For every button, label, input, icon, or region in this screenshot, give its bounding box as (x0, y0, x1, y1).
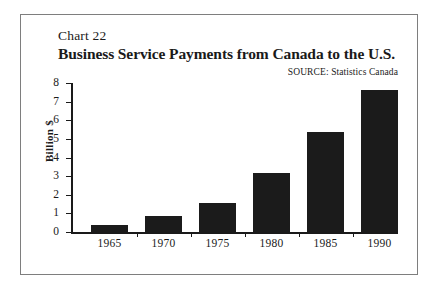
y-tick: 1 (66, 213, 71, 214)
bar (361, 90, 398, 232)
chart-figure: Chart 22 Business Service Payments from … (20, 14, 418, 275)
y-tick-label: 2 (53, 187, 59, 202)
x-tick (245, 233, 246, 237)
x-tick-label: 1980 (253, 237, 290, 249)
x-tick-label: 1965 (91, 237, 128, 249)
y-tick-label: 6 (53, 112, 59, 127)
bar (253, 173, 290, 232)
x-axis-line (71, 232, 398, 234)
chart-heading: Chart 22 Business Service Payments from … (58, 28, 398, 63)
y-tick: 0 (66, 232, 71, 233)
source-note: SOURCE: Statistics Canada (58, 67, 398, 77)
y-tick: 6 (66, 120, 71, 121)
y-tick: 2 (66, 195, 71, 196)
bar (199, 203, 236, 232)
source-label: SOURCE: (288, 67, 329, 77)
y-tick: 7 (66, 102, 71, 103)
y-tick: 8 (66, 83, 71, 84)
y-tick-label: 5 (53, 131, 59, 146)
y-tick-label: 4 (53, 150, 59, 165)
y-tick-label: 0 (53, 224, 59, 239)
x-tick-label: 1985 (307, 237, 344, 249)
y-tick: 4 (66, 158, 71, 159)
x-tick (191, 233, 192, 237)
x-tick-label: 1970 (145, 237, 182, 249)
plot-area: Billion $ 012345678 19651970197519801985… (71, 83, 413, 232)
bar (307, 132, 344, 232)
x-tick-label: 1990 (361, 237, 398, 249)
x-tick (353, 233, 354, 237)
chart-number: Chart 22 (58, 28, 398, 44)
y-tick-label: 8 (53, 75, 59, 90)
x-tick (299, 233, 300, 237)
chart-title: Business Service Payments from Canada to… (58, 44, 398, 63)
x-tick (137, 233, 138, 237)
bar (145, 216, 182, 232)
x-tick-label: 1975 (199, 237, 236, 249)
bar (91, 225, 128, 232)
y-tick-label: 7 (53, 94, 59, 109)
source-value: Statistics Canada (331, 67, 398, 77)
y-tick: 5 (66, 139, 71, 140)
y-axis-line (71, 83, 73, 233)
y-tick-label: 3 (53, 168, 59, 183)
y-tick: 3 (66, 176, 71, 177)
y-tick-label: 1 (53, 205, 59, 220)
